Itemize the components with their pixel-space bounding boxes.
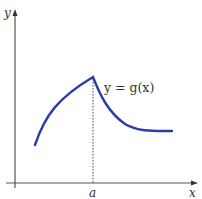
y-axis-arrow-icon	[13, 9, 18, 16]
x-axis-label: x	[189, 186, 196, 199]
x-axis-arrow-icon	[191, 181, 198, 186]
y-axis-label: y	[3, 6, 11, 20]
a-tick-label: a	[89, 186, 96, 199]
curve-label: y = g(x)	[103, 80, 154, 95]
function-graph: y x a y = g(x)	[0, 0, 202, 199]
